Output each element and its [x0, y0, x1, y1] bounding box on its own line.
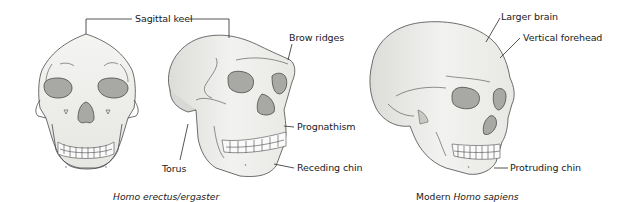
- leader-sagittal-keel-front: [86, 19, 132, 34]
- label-torus: Torus: [162, 164, 186, 174]
- label-sagittal-keel: Sagittal keel: [135, 14, 193, 24]
- leader-vertical-forehead: [500, 38, 520, 58]
- leader-receding-chin: [274, 164, 294, 168]
- caption-sapiens: Modern Homo sapiens: [416, 192, 519, 201]
- caption-sapiens-prefix: Modern: [416, 191, 453, 202]
- erectus-front-skull: [36, 34, 138, 169]
- erectus-side-skull: [168, 35, 294, 176]
- leader-brow-ridges: [288, 44, 292, 60]
- skull-comparison-figure: Sagittal keel Brow ridges Prognathism To…: [0, 0, 626, 202]
- caption-sapiens-species: Homo sapiens: [453, 191, 518, 202]
- label-brow-ridges: Brow ridges: [289, 33, 344, 43]
- sapiens-skull: [370, 22, 514, 175]
- sapiens-teeth: [452, 144, 500, 159]
- label-prognathism: Prognathism: [297, 122, 355, 132]
- caption-erectus: Homo erectus/ergaster: [113, 192, 219, 201]
- leader-larger-brain: [486, 18, 500, 42]
- caption-erectus-text: Homo erectus/ergaster: [113, 191, 219, 202]
- leader-torus: [180, 124, 188, 160]
- label-receding-chin: Receding chin: [297, 163, 362, 173]
- label-vertical-forehead: Vertical forehead: [523, 33, 602, 43]
- label-protruding-chin: Protruding chin: [510, 163, 581, 173]
- label-larger-brain: Larger brain: [501, 12, 558, 22]
